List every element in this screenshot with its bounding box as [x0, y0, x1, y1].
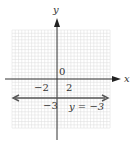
line-equation-label: y = −3 [68, 101, 104, 112]
y-axis-label: y [52, 4, 59, 15]
y-axis-arrow-icon [54, 18, 60, 27]
y-tick-label-neg3: −3 [43, 100, 58, 111]
x-axis-label: x [124, 73, 130, 84]
x-tick-label-neg2: −2 [34, 82, 49, 93]
x-axis-arrow-icon [112, 76, 121, 82]
coordinate-graph: y x 0 −2 2 −3 y = −3 [0, 0, 137, 147]
x-tick-label-pos2: 2 [66, 82, 72, 93]
origin-label: 0 [59, 66, 65, 77]
